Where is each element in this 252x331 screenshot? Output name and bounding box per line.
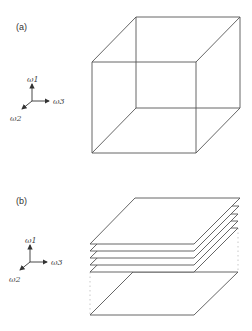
axis-label-w3: ω3 xyxy=(51,258,63,267)
panel-b-label: (b) xyxy=(16,196,27,206)
panel-b: (b) ω1 ω3 ω2 xyxy=(9,196,240,315)
axes-icon-a: ω1 ω3 ω2 xyxy=(10,75,65,123)
panel-a-label: (a) xyxy=(16,22,27,32)
axis-label-w1: ω1 xyxy=(25,236,37,245)
stacked-planes xyxy=(90,198,240,272)
bottom-plane xyxy=(90,272,238,315)
axis-label-w2: ω2 xyxy=(9,275,21,284)
axis-label-w3: ω3 xyxy=(53,97,65,106)
axis-label-w1: ω1 xyxy=(27,75,39,84)
panel-a: (a) ω1 ω3 ω2 xyxy=(10,17,240,153)
diagram-canvas: (a) ω1 ω3 ω2 (b) ω1 ω3 xyxy=(0,0,252,331)
axes-icon-b: ω1 ω3 ω2 xyxy=(9,236,63,284)
axis-label-w2: ω2 xyxy=(10,114,22,123)
cube xyxy=(92,17,240,153)
